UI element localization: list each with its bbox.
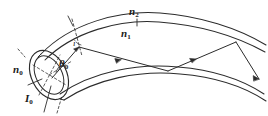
label-acceptance-angle: θ0 <box>59 58 68 69</box>
reflected-ray-2 <box>168 42 236 71</box>
label-theta0-sub: 0 <box>65 63 69 71</box>
label-core-index: n1 <box>121 28 131 39</box>
label-outside-index: n0 <box>13 64 23 75</box>
label-n0-sub: 0 <box>19 69 23 77</box>
core-bottom-wall <box>60 66 264 94</box>
core-top-wall <box>45 22 265 60</box>
end-face-normal-tick <box>18 49 25 57</box>
label-theta0-base: θ <box>59 57 65 69</box>
reflected-ray-1 <box>79 47 168 71</box>
label-incidence-angle: i <box>73 39 76 48</box>
label-n1-sub: 1 <box>127 33 131 41</box>
aperture-tick-left <box>28 79 42 85</box>
optical-fiber-figure: n2 n1 n0 I0 θ0 i <box>0 0 268 116</box>
label-cladding-index: n2 <box>129 6 139 17</box>
reflected-ray-2-arrowhead <box>190 58 196 62</box>
fiber-diagram-svg <box>0 0 268 116</box>
reflected-ray-1-arrowhead <box>115 59 121 63</box>
exit-ray-arrowhead <box>253 76 259 81</box>
label-I0-sub: 0 <box>29 98 33 106</box>
label-aperture: I0 <box>25 93 33 104</box>
label-n2-sub: 2 <box>135 11 139 19</box>
